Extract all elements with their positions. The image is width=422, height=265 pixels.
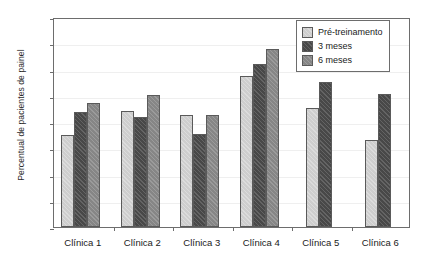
x-tick-label: Clínica 3 — [172, 238, 232, 248]
bar — [266, 49, 279, 227]
x-tick-mark — [352, 227, 353, 231]
bar-group — [233, 19, 293, 227]
bar — [134, 117, 147, 227]
bar — [306, 108, 319, 227]
legend-label: 6 meses — [318, 56, 352, 65]
x-tick-label: Clínica 5 — [291, 238, 351, 248]
legend-label: 3 meses — [318, 42, 352, 51]
bar — [378, 94, 391, 227]
bar — [74, 112, 87, 228]
x-tick-mark — [114, 227, 115, 231]
bar-group — [54, 19, 114, 227]
bar — [87, 103, 100, 227]
bar-group — [114, 19, 174, 227]
legend-swatch-icon — [302, 55, 313, 66]
x-tick-label: Clínica 6 — [351, 238, 411, 248]
legend-swatch-icon — [302, 27, 313, 38]
bar — [240, 76, 253, 227]
legend-swatch-icon — [302, 41, 313, 52]
legend-item[interactable]: 3 meses — [302, 39, 383, 53]
bar — [121, 111, 134, 227]
x-tick-mark — [292, 227, 293, 231]
bar — [206, 115, 219, 227]
bar — [180, 115, 193, 227]
x-tick-label: Clínica 1 — [53, 238, 113, 248]
bar — [147, 95, 160, 227]
bar — [193, 134, 206, 227]
y-axis-title: Percentual de pacientes de painel — [14, 10, 28, 220]
x-tick-mark — [173, 227, 174, 231]
x-tick-label: Clínica 4 — [232, 238, 292, 248]
legend-label: Pré-treinamento — [318, 28, 383, 37]
legend-item[interactable]: Pré-treinamento — [302, 25, 383, 39]
bar-group — [173, 19, 233, 227]
legend-item[interactable]: 6 meses — [302, 53, 383, 67]
bar — [253, 64, 266, 227]
bar-chart: Percentual de pacientes de painel 051015… — [0, 0, 422, 265]
bar — [319, 82, 332, 227]
bar — [61, 135, 74, 227]
y-tick-mark — [50, 229, 54, 230]
chart-legend: Pré-treinamento3 meses6 meses — [296, 20, 390, 72]
x-tick-label: Clínica 2 — [113, 238, 173, 248]
x-tick-mark — [233, 227, 234, 231]
bar — [365, 140, 378, 227]
